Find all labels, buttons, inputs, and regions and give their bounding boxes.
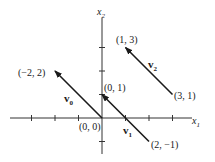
point-label-1-3: (1, 3) (116, 34, 138, 46)
vector-label-v0: v0 (64, 92, 74, 107)
vector-arrow-v2 (126, 48, 173, 95)
y-axis-label: x2 (96, 6, 105, 20)
point-label-origin: (0, 0) (79, 121, 101, 133)
point-label-neg2-2: (−2, 2) (18, 67, 45, 79)
point-label-3-1: (3, 1) (174, 90, 196, 102)
point-label-0-1: (0, 1) (104, 82, 126, 94)
point-label-2-neg1: (2, −1) (151, 139, 178, 151)
vector-diagram: x1 x2 v0 v1 v2 (0, 0) (−2, 2) (0, 1) (2,… (0, 0, 215, 162)
vector-label-v1: v1 (123, 124, 133, 139)
x-axis-label: x1 (191, 115, 200, 129)
vector-arrow-v0 (55, 71, 102, 118)
